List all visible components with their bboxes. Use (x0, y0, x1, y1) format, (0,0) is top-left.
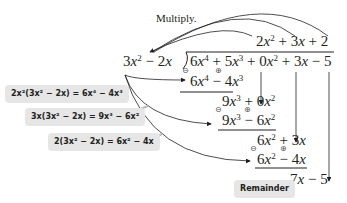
divisor: 3x2 − 2x (123, 54, 172, 69)
subtract-row-3: 6x2 − 4x (257, 152, 306, 167)
minus-sign-icon: ⊖ (182, 66, 189, 75)
long-division-diagram: Multiply. 2x2 + 3x + 2 3x2 − 2x 6x4 + 5x… (0, 0, 347, 203)
step3-label: 2(3x² − 2x) = 6x² − 4x (48, 133, 160, 151)
plus-sign-icon: ⊕ (280, 144, 287, 153)
multiply-note: Multiply. (156, 12, 197, 24)
quotient: 2x2 + 3x + 2 (256, 34, 328, 49)
dividend: 6x4 + 5x3 + 0x2 + 3x − 5 (190, 54, 332, 69)
plus-sign-icon: ⊕ (215, 66, 222, 75)
minus-sign-icon: ⊖ (250, 144, 257, 153)
plus-sign-icon: ⊕ (244, 105, 251, 114)
step1-label: 2x²(3x² − 2x) = 6x⁴ − 4x³ (5, 85, 129, 103)
remainder-label: Remainder (234, 180, 295, 198)
final-remainder: 7x − 5 (290, 172, 328, 187)
subtract-row-2: 9x3 − 6x2 (222, 113, 275, 128)
subtract-row-1: 6x4 − 4x3 (190, 74, 243, 89)
minus-sign-icon: ⊖ (215, 105, 222, 114)
step2-label: 3x(3x² − 2x) = 9x³ − 6x² (25, 108, 145, 126)
